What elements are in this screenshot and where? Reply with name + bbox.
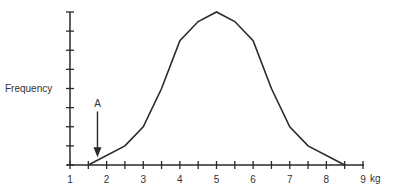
arrow-down-icon <box>93 147 101 157</box>
axis-ticks <box>66 12 363 169</box>
x-tick-label: 2 <box>104 174 110 185</box>
x-tick-label: 5 <box>214 174 220 185</box>
x-tick-label: 4 <box>177 174 183 185</box>
annotation-label-a: A <box>94 98 101 109</box>
x-tick-label: 7 <box>287 174 293 185</box>
frequency-curve <box>88 12 344 165</box>
annotation-arrow-a: A <box>93 98 101 157</box>
y-axis-label: Frequency <box>5 83 52 94</box>
x-tick-labels: 123456789 <box>67 174 366 185</box>
axes <box>67 12 364 165</box>
frequency-chart: 123456789 A Frequency kg <box>0 0 395 193</box>
x-tick-label: 8 <box>324 174 330 185</box>
x-tick-label: 9 <box>360 174 366 185</box>
x-tick-label: 1 <box>67 174 73 185</box>
x-axis-unit-label: kg <box>370 173 381 184</box>
x-tick-label: 6 <box>250 174 256 185</box>
x-tick-label: 3 <box>140 174 146 185</box>
